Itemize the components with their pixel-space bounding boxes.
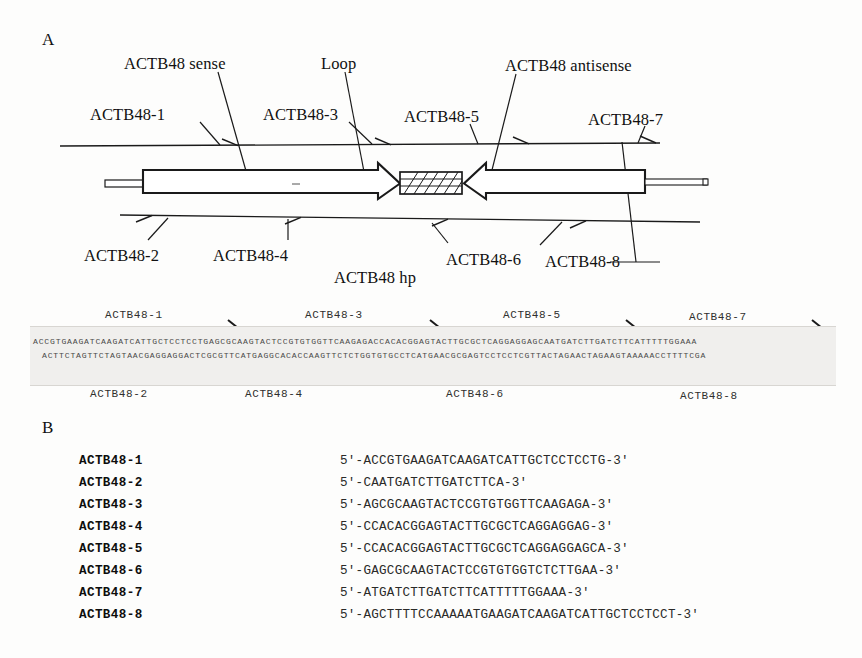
panel-b-name-5: ACTB48-5 (79, 542, 143, 556)
alignment-tag-bottom-8: ACTB48-8 (680, 390, 738, 402)
panel-b-sequence-8: 5′-AGCTTTTCCAAAAATGAAGATCAAGATCATTGCTCCT… (340, 608, 699, 622)
alignment-bottom-strand: ACTTCTAGTTCTAGTAACGAGGAGGACTCGCGTTCATGAG… (42, 351, 706, 360)
panel-b-sequence-1: 5′-ACCGTGAAGATCAAGATCATTGCTCCTCCTG-3′ (340, 454, 629, 468)
panel-b-sequence-4: 5′-CCACACGGAGTACTTGCGCTCAGGAGGAG-3′ (340, 520, 613, 534)
leader-top-1 (200, 122, 220, 145)
leader-bot-8 (540, 222, 562, 245)
alignment-top-strand: ACCGTGAAGATCAAGATCATTGCTCCTCCTGAGCGCAAGT… (33, 337, 697, 346)
antisense-strand-arrow (464, 163, 645, 199)
alignment-tag-top-3: ACTB48-3 (305, 309, 363, 321)
panel-b-sequence-2: 5′-CAATGATCTTGATCTTCA-3′ (340, 476, 527, 490)
leader-loop (345, 72, 365, 177)
alignment-tag-top-7: ACTB48-7 (689, 311, 747, 323)
leader-top-7 (638, 126, 645, 143)
alignment-tag-bottom-6: ACTB48-6 (446, 388, 504, 400)
panel-b-sequence-6: 5′-GAGCGCAAGTACTCCGTGTGGTCTCTTGAA-3′ (340, 564, 621, 578)
panel-b-name-2: ACTB48-2 (79, 476, 143, 490)
leader-hairpin-stem (622, 142, 636, 262)
panel-b-sequence-3: 5′-AGCGCAAGTACTCCGTGTGGTTCAAGAGA-3′ (340, 498, 613, 512)
lower-arrowhead-4 (570, 221, 586, 228)
leader-top-5 (470, 124, 478, 144)
right-tail-cap (703, 179, 708, 185)
alignment-tag-top-5: ACTB48-5 (503, 309, 561, 321)
lower-arrowhead-3 (432, 219, 448, 226)
leader-bot-6 (432, 223, 448, 243)
panel-b-name-3: ACTB48-3 (79, 498, 143, 512)
sequence-alignment-block: ACCGTGAAGATCAAGATCATTGCTCCTCCTGAGCGCAAGT… (30, 326, 836, 386)
lower-arrowhead-1 (136, 216, 152, 223)
sense-strand-arrow (143, 163, 400, 199)
panel-b-sequence-7: 5′-ATGATCTTGATCTTCATTTTTGGAAA-3′ (340, 586, 590, 600)
leader-top-3 (349, 122, 372, 144)
panel-b-name-6: ACTB48-6 (79, 564, 143, 578)
leader-antisense (490, 74, 516, 178)
loop-hatched-region (400, 172, 462, 194)
right-3prime-tail (645, 179, 707, 185)
panel-b-name-8: ACTB48-8 (79, 608, 143, 622)
panel-b-name-7: ACTB48-7 (79, 586, 143, 600)
panel-b-name-1: ACTB48-1 (79, 454, 143, 468)
upper-primer-axis (60, 143, 660, 146)
upper-arrowhead-3 (513, 137, 529, 144)
alignment-tag-top-1: ACTB48-1 (105, 309, 163, 321)
alignment-tag-bottom-2: ACTB48-2 (90, 388, 148, 400)
lower-primer-axis (120, 215, 700, 222)
leader-bot-2 (148, 218, 168, 240)
figure-root: A B ACTB48 sense Loop ACTB48 antisense A… (0, 0, 862, 658)
panel-b-name-4: ACTB48-4 (79, 520, 143, 534)
leader-sense (218, 72, 248, 178)
panel-b-sequence-5: 5′-CCACACGGAGTACTTGCGCTCAGGAGGAGCA-3′ (340, 542, 629, 556)
alignment-tag-bottom-4: ACTB48-4 (245, 388, 303, 400)
left-5prime-tail (105, 180, 143, 187)
upper-arrowhead-4 (640, 136, 656, 143)
